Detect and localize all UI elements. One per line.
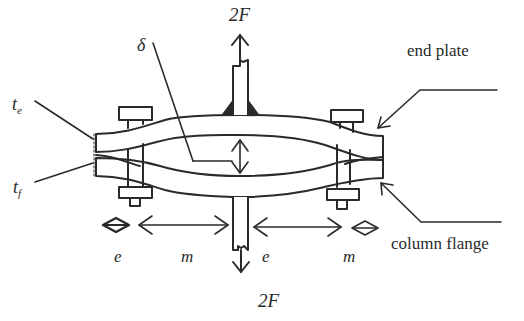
dim-e-left: e xyxy=(114,248,122,265)
te-label: te xyxy=(12,95,22,113)
end-plate-label: end plate xyxy=(407,42,469,59)
column-flange-leader xyxy=(381,183,501,222)
tf-leader xyxy=(35,163,93,182)
column-web-bottom xyxy=(233,197,249,272)
column-flange-label: column flange xyxy=(391,235,489,252)
dim-e-right: e xyxy=(262,248,270,265)
dim-m-right: m xyxy=(343,248,355,265)
force-top-label: 2F xyxy=(229,5,250,24)
tf-label: tf xyxy=(13,178,21,196)
force-bottom-label: 2F xyxy=(258,291,279,310)
end-plate-leader xyxy=(378,90,497,128)
tf-subscript: f xyxy=(18,187,21,199)
delta-label: δ xyxy=(137,36,145,54)
bolt-left xyxy=(119,107,152,206)
beam-web-top xyxy=(222,35,259,115)
dim-m-left: m xyxy=(181,248,193,265)
te-subscript: e xyxy=(17,104,22,116)
te-leader xyxy=(35,101,93,139)
